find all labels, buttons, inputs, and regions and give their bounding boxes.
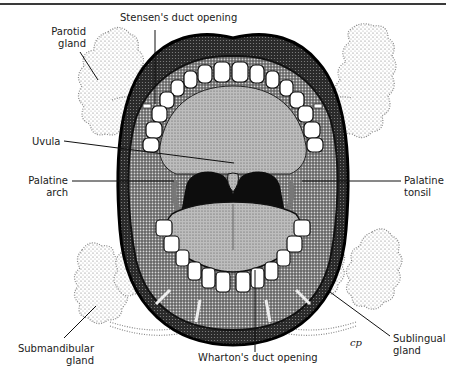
label-parotid-line1: Parotid xyxy=(44,26,86,37)
label-palatine-arch-line2: arch xyxy=(10,187,68,198)
label-sublingual-line1: Sublingual xyxy=(393,333,446,344)
label-uvula: Uvula xyxy=(32,136,60,147)
label-submandibular-line2: gland xyxy=(14,355,94,366)
label-palatine-arch-line1: Palatine xyxy=(10,175,68,186)
label-stensens-duct: Stensen's duct opening xyxy=(120,12,237,23)
artist-signature: cp xyxy=(350,337,363,348)
label-submandibular-line1: Submandibular xyxy=(14,343,94,354)
label-palatine-tonsil-line1: Palatine xyxy=(404,175,444,186)
label-parotid-line2: gland xyxy=(44,38,86,49)
mouth-illustration: cp xyxy=(0,0,466,387)
label-palatine-tonsil-line2: tonsil xyxy=(404,187,431,198)
mouth-anatomy-diagram: cp Stensen's duct opening Parotid gland … xyxy=(0,0,466,387)
label-whartons-duct: Wharton's duct opening xyxy=(198,352,318,363)
label-sublingual-line2: gland xyxy=(393,345,421,356)
